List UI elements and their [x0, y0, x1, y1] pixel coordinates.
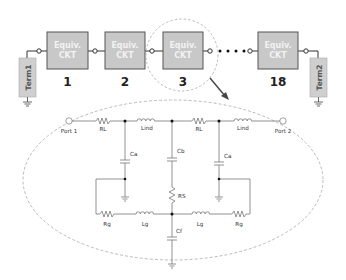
equiv-ckt-box-2: Equiv. CKT 2 [105, 32, 145, 89]
inductor-lind-right [234, 119, 252, 121]
box-index: 2 [121, 75, 129, 89]
box-label-line2: CKT [174, 51, 192, 60]
term2-block: Term2 [310, 58, 327, 106]
equiv-ckt-box-18: Equiv. CKT 18 [258, 32, 298, 89]
resistor-rg-left [100, 211, 114, 217]
lind-right-label: Lind [237, 125, 249, 131]
ground-icon [314, 97, 323, 106]
connector-node [150, 49, 154, 53]
box-label-line2: CKT [269, 51, 287, 60]
zoom-arrow [210, 78, 229, 100]
lind-left-label: Lind [141, 125, 153, 131]
resistor-rg-right [232, 211, 246, 217]
connector-node [304, 49, 308, 53]
box-index: 18 [270, 75, 287, 89]
chain-row: Term1 Term2 Equiv. CKT 1 [19, 19, 327, 106]
box-index: 3 [179, 75, 187, 89]
rs-label: RS [178, 193, 186, 199]
equiv-ckt-box-1: Equiv. CKT 1 [47, 32, 88, 89]
equiv-ckt-box-3: Equiv. CKT 3 [163, 32, 203, 89]
ellipsis-dots [219, 50, 246, 53]
term1-label: Term1 [24, 65, 33, 91]
ground-icon [23, 97, 32, 106]
ca-left-label: Ca [130, 151, 137, 157]
equivalent-circuit-schematic [66, 118, 286, 268]
circuit-diagram: Term1 Term2 Equiv. CKT 1 [0, 0, 346, 280]
box-index: 1 [63, 75, 71, 89]
box-label-line1: Equiv. [264, 41, 291, 50]
connector-node [208, 49, 212, 53]
rl-right-label: RL [195, 126, 203, 132]
ground-icon [215, 197, 223, 201]
ground-icon [121, 197, 129, 201]
term2-label: Term2 [315, 65, 324, 91]
port1-label: Port 1 [61, 128, 78, 134]
rg-left-label: Rg [103, 221, 111, 228]
resistor-rs [169, 187, 175, 203]
inductor-lind-left [137, 119, 155, 121]
lg-left-label: Lg [142, 221, 149, 228]
port1-terminal [66, 118, 72, 124]
ground-icon [168, 264, 176, 268]
cb-label: Cb [177, 148, 185, 154]
rg-right-label: Rg [235, 221, 243, 228]
capacitor-cb [167, 158, 177, 161]
resistor-rl-left [96, 118, 110, 124]
inductor-lg-left [136, 212, 154, 214]
resistor-rl-right [192, 118, 206, 124]
box-label-line1: Equiv. [111, 41, 138, 50]
connector-node [37, 49, 41, 53]
capacitor-ca-left [120, 160, 130, 163]
connector-node [248, 49, 252, 53]
box-label-line1: Equiv. [169, 41, 196, 50]
port2-terminal [280, 118, 286, 124]
box-label-line2: CKT [59, 51, 77, 60]
rl-left-label: RL [99, 126, 107, 132]
box-label-line1: Equiv. [54, 41, 81, 50]
lg-right-label: Lg [197, 221, 204, 228]
cf-label: Cf [176, 228, 183, 234]
connector-node [93, 49, 97, 53]
term1-block: Term1 [19, 58, 36, 106]
ca-right-label: Ca [224, 153, 231, 159]
box-label-line2: CKT [116, 51, 134, 60]
schematic-labels: Port 1 Port 2 RL Lind RL Lind Ca Cb Ca R… [61, 125, 291, 234]
capacitor-ca-right [214, 162, 224, 165]
port2-label: Port 2 [275, 128, 291, 134]
inductor-lg-right [192, 212, 210, 214]
capacitor-cf [167, 237, 177, 240]
